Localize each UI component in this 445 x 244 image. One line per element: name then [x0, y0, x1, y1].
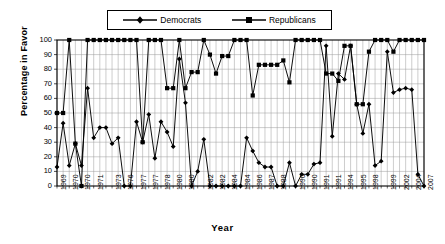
- x-tick-label: 1998: [372, 174, 379, 190]
- x-tick-label: 1970: [72, 174, 79, 190]
- chart-figure: Democrats Republicans Percentage in Favo…: [0, 0, 445, 244]
- x-axis-tick-labels: 1969197019701971197319761977197719781980…: [0, 0, 445, 244]
- x-tick-label: 1980: [176, 174, 183, 190]
- x-tick-label: 1995: [360, 174, 367, 190]
- x-tick-label: 1990: [311, 174, 318, 190]
- x-tick-label: 1976: [127, 174, 134, 190]
- x-tick-label: 1973: [115, 174, 122, 190]
- x-tick-label: 1970: [84, 174, 91, 190]
- x-tick-label: 1984: [231, 174, 238, 190]
- x-tick-label: 1987: [268, 174, 275, 190]
- x-tick-label: 1977: [152, 174, 159, 190]
- x-tick-label: 1991: [323, 174, 330, 190]
- x-tick-label: 1984: [244, 174, 251, 190]
- x-tick-label: 2007: [427, 174, 434, 190]
- x-tick-label: 1978: [164, 174, 171, 190]
- x-tick-label: 1990: [299, 174, 306, 190]
- x-tick-label: 2004: [415, 174, 422, 190]
- x-tick-label: 1991: [335, 174, 342, 190]
- x-tick-label: 1982: [219, 174, 226, 190]
- x-tick-label: 1971: [97, 174, 104, 190]
- x-tick-label: 1982: [207, 174, 214, 190]
- x-tick-label: 1977: [140, 174, 147, 190]
- x-tick-label: 1986: [256, 174, 263, 190]
- x-tick-label: 1999: [390, 174, 397, 190]
- x-tick-label: 2002: [403, 174, 410, 190]
- x-tick-label: 1994: [347, 174, 354, 190]
- x-tick-label: 1988: [280, 174, 287, 190]
- x-tick-label: 1969: [60, 174, 67, 190]
- x-axis-title: Year: [0, 222, 445, 233]
- x-tick-label: 1980: [188, 174, 195, 190]
